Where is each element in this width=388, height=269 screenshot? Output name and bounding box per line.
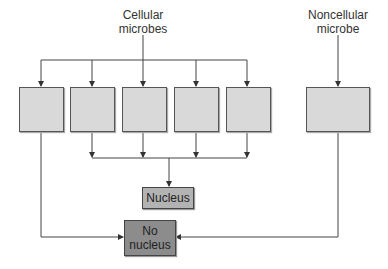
- no-nucleus-box: No nucleus: [124, 220, 176, 256]
- noncellular-microbe-label: Noncellular microbe: [302, 8, 374, 36]
- noncellular-box: [306, 87, 370, 132]
- cellular-microbes-label: Cellular microbes: [108, 8, 178, 36]
- cellular-box-3: [122, 87, 167, 132]
- diagram: Cellular microbes Noncellular microbe Nu…: [0, 0, 388, 269]
- cellular-box-4: [174, 87, 219, 132]
- connector-lines: [0, 0, 388, 269]
- cellular-box-1: [19, 87, 64, 132]
- cellular-box-5: [226, 87, 271, 132]
- nucleus-box: Nucleus: [142, 187, 194, 209]
- cellular-box-2: [70, 87, 115, 132]
